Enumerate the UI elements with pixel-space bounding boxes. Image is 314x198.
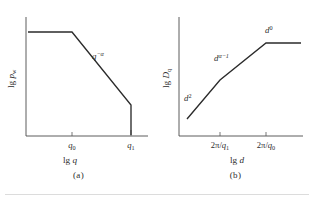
bottom-divider xyxy=(5,194,309,195)
x-tick-label-q1: q1 xyxy=(127,140,134,151)
y-axis-label-a: lg pw xyxy=(6,69,17,88)
x-axis-label-a: lg q xyxy=(63,155,77,165)
x-tick-label-2pi-q0: 2π/q0 xyxy=(257,140,275,151)
x-axis-label-b: lg d xyxy=(230,155,244,165)
panel-a-plot: lg pw lg q q0 q1 q−α xyxy=(0,0,157,198)
panel-a: lg pw lg q q0 q1 q−α (a) xyxy=(0,0,157,198)
x-tick-label-2pi-q1: 2π/q1 xyxy=(211,140,229,151)
annotation-d-alpha-1: dα−1 xyxy=(214,52,229,64)
curve-structure-function xyxy=(187,43,301,119)
y-axis-label-b: lg Dq xyxy=(161,69,172,88)
x-tick-label-q0: q0 xyxy=(68,140,75,151)
curve-power-spectrum xyxy=(28,32,131,135)
panel-b: lg Dq lg d 2π/q1 2π/q0 d2 dα−1 d0 (b) xyxy=(157,0,314,198)
annotation-q-alpha: q−α xyxy=(92,50,105,62)
annotation-d-0: d0 xyxy=(265,24,273,36)
annotation-d-2: d2 xyxy=(184,92,192,104)
caption-b: (b) xyxy=(157,170,314,180)
figure-root: lg pw lg q q0 q1 q−α (a) lg Dq lg xyxy=(0,0,314,198)
caption-a: (a) xyxy=(0,170,157,180)
panel-b-plot: lg Dq lg d 2π/q1 2π/q0 d2 dα−1 d0 xyxy=(157,0,314,198)
